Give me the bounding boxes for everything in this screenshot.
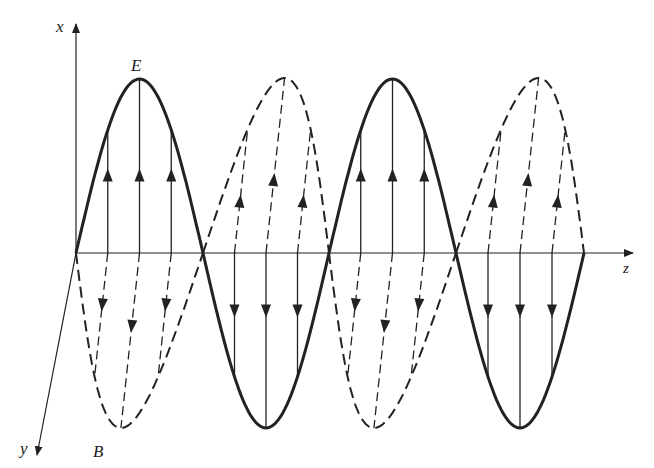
electric-lobe-4 <box>456 253 584 428</box>
magnetic-field-vector <box>348 253 361 377</box>
arrow-head-icon <box>380 320 390 333</box>
arrow-head-icon <box>547 305 557 318</box>
magnetic-field-vector <box>374 253 393 428</box>
arrow-head-icon <box>166 169 176 182</box>
magnetic-field-label: B <box>93 443 103 460</box>
arrow-head-icon <box>230 305 240 318</box>
x-axis-label: x <box>56 18 64 35</box>
arrow-head-icon <box>234 195 244 208</box>
arrow-head-icon <box>356 169 366 182</box>
electric-lobe-1 <box>76 79 203 253</box>
arrow-head-icon <box>483 305 493 318</box>
magnetic-field-curve <box>203 78 329 253</box>
magnetic-field-curve <box>76 253 203 428</box>
magnetic-field-curve <box>456 78 584 253</box>
electric-lobe-3 <box>329 79 456 253</box>
y-axis <box>37 253 76 455</box>
magnetic-lobe-2 <box>203 78 329 253</box>
magnetic-field-vector <box>520 78 539 253</box>
y-axis-label: y <box>20 440 28 457</box>
arrow-head-icon <box>351 298 361 311</box>
arrow-head-icon <box>268 173 278 186</box>
magnetic-lobe-4 <box>456 78 584 253</box>
wave-drawing <box>0 0 654 468</box>
z-axis-label: z <box>623 261 629 276</box>
arrow-head-icon <box>388 169 398 182</box>
arrow-head-icon <box>127 320 137 333</box>
arrow-head-icon <box>419 169 429 182</box>
magnetic-field-vector <box>95 253 108 377</box>
arrow-head-icon <box>552 195 562 208</box>
arrow-head-icon <box>135 169 145 182</box>
magnetic-field-vector <box>411 253 424 377</box>
electric-lobe-2 <box>203 253 329 428</box>
magnetic-field-vector <box>266 78 285 253</box>
magnetic-field-vector <box>298 129 311 253</box>
em-wave-diagram: x y z E B <box>0 0 654 468</box>
arrow-head-icon <box>515 305 525 318</box>
arrow-head-icon <box>161 298 171 311</box>
arrow-head-icon <box>488 195 498 208</box>
electric-field-label: E <box>131 57 141 74</box>
arrow-head-icon <box>103 169 113 182</box>
magnetic-lobe-1 <box>76 253 203 428</box>
magnetic-lobe-3 <box>329 253 456 428</box>
arrow-head-icon <box>261 305 271 318</box>
arrow-head-icon <box>293 305 303 318</box>
magnetic-field-vector <box>488 129 501 253</box>
arrow-head-icon <box>297 195 307 208</box>
magnetic-field-vector <box>121 253 140 428</box>
arrow-head-icon <box>98 298 108 311</box>
magnetic-field-vector <box>158 253 171 377</box>
arrow-head-icon <box>414 298 424 311</box>
magnetic-field-vector <box>552 129 565 253</box>
magnetic-field-curve <box>329 253 456 428</box>
arrow-head-icon <box>522 173 532 186</box>
